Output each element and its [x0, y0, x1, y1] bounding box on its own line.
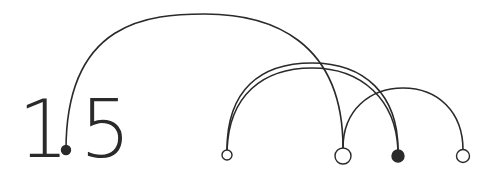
arc-n2-n4 [343, 88, 463, 150]
node-open-right [457, 150, 470, 163]
arc-n1-n3-inner [227, 68, 398, 150]
arc-n0-n2 [66, 14, 343, 150]
node-decimal-point [62, 146, 71, 155]
arc-diagram [0, 0, 496, 177]
node-open-small [222, 150, 232, 160]
node-open-large [335, 148, 351, 164]
arc-n1-n3-outer [227, 63, 398, 150]
node-filled [392, 150, 404, 162]
